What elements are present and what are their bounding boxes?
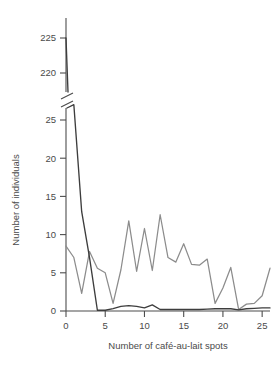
y-axis-upper-tick-labels: 220225 <box>40 32 56 78</box>
y-tick-label-lower: 15 <box>45 191 56 202</box>
y-tick-label-upper: 225 <box>40 32 56 43</box>
x-tick-label: 10 <box>139 320 150 331</box>
y-axis-title: Number of individuals <box>10 154 21 246</box>
x-tick-label: 15 <box>178 320 189 331</box>
y-axis-lower-ticks <box>60 120 66 311</box>
series-line-gray <box>66 215 270 310</box>
x-tick-label: 5 <box>103 320 108 331</box>
x-axis-title: Number of café-au-lait spots <box>108 340 228 351</box>
chart-figure: 220225 0510152025 0510152025 Number of c… <box>0 0 276 380</box>
x-tick-label: 0 <box>63 320 68 331</box>
y-tick-label-lower: 0 <box>51 305 56 316</box>
y-axis-lower-tick-labels: 0510152025 <box>45 114 56 316</box>
data-series-group <box>66 38 270 310</box>
x-axis-tick-labels: 0510152025 <box>63 320 267 331</box>
line-chart-svg: 220225 0510152025 0510152025 Number of c… <box>0 0 276 380</box>
y-tick-label-lower: 10 <box>45 229 56 240</box>
x-tick-label: 25 <box>257 320 268 331</box>
y-tick-label-lower: 5 <box>51 267 56 278</box>
axis-break-marks <box>61 93 73 107</box>
y-axis-upper-ticks <box>60 38 66 73</box>
y-tick-label-lower: 20 <box>45 153 56 164</box>
y-tick-label-lower: 25 <box>45 114 56 125</box>
y-tick-label-upper: 220 <box>40 67 56 78</box>
axis-break-upper-slash <box>61 93 73 99</box>
x-axis-ticks <box>66 311 262 317</box>
series-line-dark-lower <box>67 105 270 311</box>
upper-panel-axis: 220225 <box>40 18 66 92</box>
x-tick-label: 20 <box>218 320 229 331</box>
